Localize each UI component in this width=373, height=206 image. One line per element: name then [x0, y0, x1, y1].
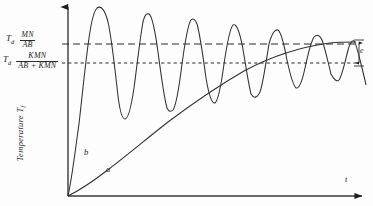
gap-annotation-label: e: [360, 47, 364, 55]
curve-b: [68, 7, 366, 196]
fraction-denominator: AB + KMN: [16, 61, 58, 70]
threshold-symbol-upper: Td: [6, 34, 14, 45]
threshold-label-lower: Td KMN AB + KMN: [3, 52, 58, 70]
threshold-symbol-lower: Td: [3, 55, 11, 66]
threshold-label-upper: Td MN AB: [6, 31, 36, 49]
curve-label-b: b: [84, 148, 88, 157]
y-axis-title: Temperature Tf: [16, 90, 27, 176]
figure-canvas: [0, 0, 373, 206]
x-axis-title: t: [345, 175, 347, 184]
fraction-denominator: AB: [20, 40, 34, 49]
damped-oscillation-figure: Td MN AB Td KMN AB + KMN Temperature Tf …: [0, 0, 373, 206]
threshold-fraction-upper: MN AB: [19, 31, 35, 49]
fraction-numerator: KMN: [26, 52, 48, 60]
curve-a: [68, 42, 356, 196]
fraction-numerator: MN: [19, 31, 35, 39]
threshold-fraction-lower: KMN AB + KMN: [16, 52, 58, 70]
curve-label-a: a: [106, 165, 110, 174]
